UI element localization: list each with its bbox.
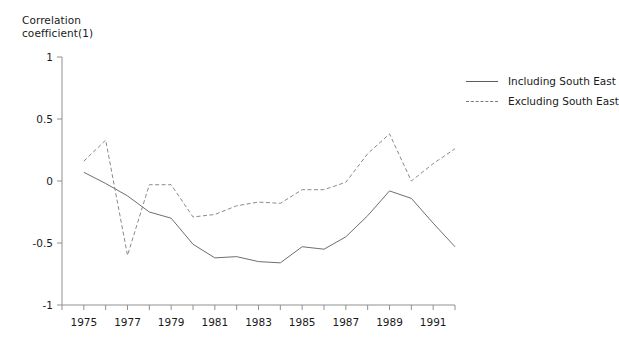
y-tick-label: -1: [43, 299, 53, 311]
x-tick-label: 1989: [376, 316, 403, 328]
x-tick-label: 1977: [114, 316, 141, 328]
y-tick-label: -0.5: [33, 237, 54, 249]
axes: [62, 57, 455, 305]
x-tick-label: 1979: [158, 316, 185, 328]
x-axis-ticks: 197519771979198119831985198719891991: [62, 305, 455, 328]
y-tick-label: 0.5: [36, 113, 53, 125]
x-tick-label: 1981: [201, 316, 228, 328]
y-tick-label: 0: [46, 175, 53, 187]
x-tick-label: 1991: [420, 316, 447, 328]
x-tick-label: 1975: [70, 316, 97, 328]
series-line-including: [84, 172, 455, 263]
x-tick-label: 1987: [332, 316, 359, 328]
x-tick-label: 1983: [245, 316, 272, 328]
x-tick-label: 1985: [289, 316, 316, 328]
y-tick-label: 1: [46, 51, 53, 63]
y-axis-ticks: 10.50-0.5-1: [33, 51, 63, 311]
data-series: [84, 134, 455, 263]
